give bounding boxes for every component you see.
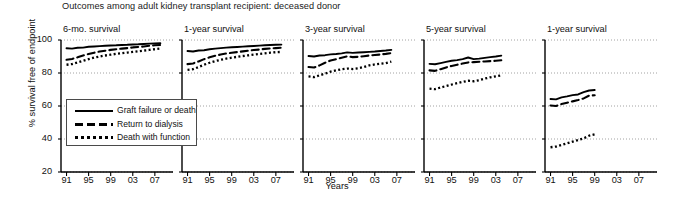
legend-swatch-dashed [75, 123, 113, 126]
x-axis-tick-label: 07 [508, 175, 528, 185]
x-axis-tick-label: 95 [321, 175, 341, 185]
x-axis-tick-label: 03 [607, 175, 627, 185]
chart-legend: Graft failure or deathReturn to dialysis… [66, 99, 197, 146]
panel-title: 6-mo. survival [63, 24, 120, 34]
panel-title: 1-year survival [184, 24, 244, 34]
y-axis-tick-label: 40 [42, 134, 52, 143]
y-axis-tick-label: 80 [42, 68, 52, 77]
chart-panel: 3-year survival9195990307 [299, 24, 417, 201]
x-axis-tick-label: 91 [57, 175, 77, 185]
x-axis-tick-label: 99 [585, 175, 605, 185]
chart-figure: Outcomes among adult kidney transplant r… [0, 0, 674, 201]
y-axis-tick-labels: 20406080100 [14, 0, 52, 201]
y-axis-tick-label: 20 [42, 167, 52, 176]
page-title: Outcomes among adult kidney transplant r… [62, 1, 340, 11]
x-axis-tick-label: 91 [420, 175, 440, 185]
chart-panel: 5-year survival9195990307 [420, 24, 538, 201]
panel-title: 3-year survival [305, 24, 365, 34]
x-axis-tick-label: 91 [178, 175, 198, 185]
x-axis-tick-label: 07 [629, 175, 649, 185]
x-axis-tick-label: 07 [387, 175, 407, 185]
x-axis-tick-label: 07 [145, 175, 165, 185]
x-axis-tick-label: 03 [244, 175, 264, 185]
legend-item: Graft failure or death [73, 104, 195, 118]
series-line [551, 95, 595, 106]
legend-item: Return to dialysis [73, 118, 195, 132]
y-axis-tick-label: 100 [37, 35, 52, 44]
x-axis-tick-label: 91 [541, 175, 561, 185]
panel-title: 5-year survival [426, 24, 486, 34]
x-axis-tick-label: 95 [563, 175, 583, 185]
x-axis-tick-label: 99 [222, 175, 242, 185]
legend-swatch-dotted [75, 136, 113, 139]
legend-swatch-solid [75, 110, 113, 112]
x-axis-tick-label: 03 [486, 175, 506, 185]
x-axis-tick-label: 95 [442, 175, 462, 185]
x-axis-tick-label: 95 [79, 175, 99, 185]
x-axis-tick-label: 03 [365, 175, 385, 185]
series-line [430, 75, 502, 89]
legend-label: Death with function [117, 132, 190, 142]
legend-item: Death with function [73, 131, 195, 145]
x-axis-tick-label: 95 [200, 175, 220, 185]
x-axis-tick-label: 99 [101, 175, 121, 185]
legend-label: Graft failure or death [117, 105, 196, 115]
x-axis-tick-label: 99 [343, 175, 363, 185]
chart-panel: 1-year survival9195990307 [541, 24, 659, 201]
series-line [430, 60, 502, 71]
y-axis-tick-label: 60 [42, 101, 52, 110]
panel-title: 1-year survival [547, 24, 607, 34]
series-line [551, 90, 595, 99]
x-axis-tick-label: 91 [299, 175, 319, 185]
series-line [551, 134, 595, 147]
legend-label: Return to dialysis [117, 119, 183, 129]
x-axis-tick-label: 99 [464, 175, 484, 185]
x-axis-tick-label: 03 [123, 175, 143, 185]
x-axis-tick-label: 07 [266, 175, 286, 185]
